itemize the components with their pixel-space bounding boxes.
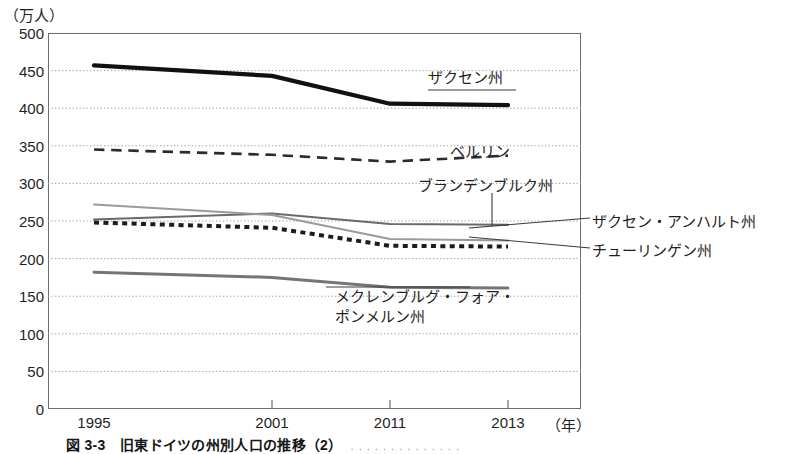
figure-caption-source: . . . . . . . . . . . . . . (343, 440, 461, 452)
x-tick-2011: 2011 (374, 414, 406, 431)
series-label-mecklenburg-line2: ポンメルン州 (335, 309, 425, 326)
figure-container: （万人） 500 450 400 350 300 250 200 150 100… (0, 0, 795, 454)
y-tick-450: 450 (0, 62, 44, 79)
y-axis-tick-labels: 500 450 400 350 300 250 200 150 100 50 0 (0, 0, 44, 454)
x-tick-2001: 2001 (255, 414, 288, 431)
figure-caption: 図 3-3 旧東ドイツの州別人口の推移（2）. . . . . . . . . … (66, 434, 460, 454)
y-tick-400: 400 (0, 100, 44, 117)
y-tick-150: 150 (0, 288, 44, 305)
series-label-thueringen: チューリンゲン州 (592, 243, 712, 260)
series-label-brandenburg: ブランデンブルク州 (418, 178, 553, 195)
figure-caption-text: 図 3-3 旧東ドイツの州別人口の推移（2） (66, 437, 343, 453)
y-tick-500: 500 (0, 25, 44, 42)
series-label-sachsen: ザクセン州 (428, 70, 503, 87)
y-tick-350: 350 (0, 137, 44, 154)
series-label-mecklenburg-line1: メクレンブルグ・フォア・ (335, 289, 515, 306)
series-label-berlin: ベルリン (450, 144, 510, 161)
y-tick-0: 0 (0, 401, 44, 418)
x-tick-2013: 2013 (491, 414, 524, 431)
y-tick-200: 200 (0, 250, 44, 267)
y-tick-100: 100 (0, 325, 44, 342)
y-tick-50: 50 (0, 363, 44, 380)
y-tick-250: 250 (0, 213, 44, 230)
x-axis-unit-label: （年） (546, 414, 591, 435)
x-tick-1995: 1995 (77, 414, 110, 431)
y-tick-300: 300 (0, 175, 44, 192)
plot-area-frame (48, 33, 581, 409)
series-label-sachsen-anhalt: ザクセン・アンハルト州 (592, 214, 756, 231)
